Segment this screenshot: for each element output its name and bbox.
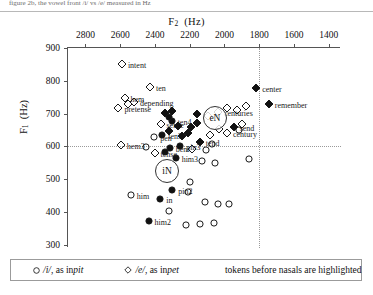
data-point-label: remember — [275, 101, 307, 110]
legend-note: tokens before nasals are highlighted — [225, 265, 362, 275]
x-tick-label: 2400 — [145, 30, 164, 40]
data-point-circle — [244, 155, 253, 164]
x-tick — [190, 44, 191, 48]
y-tick-label: 300 — [46, 240, 60, 250]
data-point-diamond — [120, 93, 130, 103]
data-point-diamond — [192, 109, 202, 119]
data-point-circle — [144, 217, 153, 226]
data-point-label: hem3 — [127, 142, 145, 151]
data-point-label: tend — [206, 139, 220, 148]
data-point-diamond — [264, 99, 274, 109]
x-tick — [120, 44, 121, 48]
data-point-circle — [168, 186, 177, 195]
data-point-diamond — [192, 118, 202, 128]
data-point-label: him3 — [182, 155, 198, 164]
y-tick-label: 800 — [46, 76, 60, 86]
x-tick-label: 2200 — [180, 30, 199, 40]
top-caption: figure 2b, the vowel front /i/ vs /e/ me… — [9, 0, 249, 8]
data-point-circle — [224, 200, 233, 209]
data-point-circle — [200, 198, 209, 207]
x-tick-label: 2800 — [76, 30, 95, 40]
data-point-circle — [211, 159, 220, 168]
data-point-diamond — [237, 119, 247, 129]
legend-entry-i: /i/ , as in pit — [29, 265, 83, 275]
x-tick — [224, 44, 225, 48]
data-point-circle — [176, 142, 185, 151]
data-point-circle — [183, 188, 192, 197]
y-tick — [64, 212, 68, 213]
x-tick — [85, 44, 86, 48]
legend-entry-e: /e/ , as in pet — [121, 265, 179, 275]
data-point-circle — [213, 200, 222, 209]
legend-symbol-e: /e/ — [135, 265, 145, 275]
circle-icon — [29, 267, 43, 274]
y-tick-label: 700 — [46, 109, 60, 119]
y-tick — [64, 245, 68, 246]
data-point-diamond — [173, 121, 183, 131]
data-point-diamond — [150, 148, 160, 158]
x-tick-label: 1600 — [285, 30, 304, 40]
legend-text-e: , as in — [145, 265, 167, 275]
data-point-label: him — [137, 192, 149, 201]
x-tick — [294, 44, 295, 48]
cluster-annotation-eN: eN — [203, 106, 227, 130]
data-point-diamond — [156, 119, 166, 129]
data-point-circle — [182, 221, 191, 230]
y-tick-label: 500 — [46, 174, 60, 184]
data-point-label: ten — [156, 84, 166, 93]
data-point-diamond — [145, 82, 155, 92]
data-point-label: tense — [161, 150, 177, 159]
legend-word-pit: pit — [73, 265, 83, 275]
y-tick-label: 400 — [46, 207, 60, 217]
y-tick — [64, 48, 68, 49]
scatter-plot-area: 2800260024002200200018001600140030040050… — [67, 47, 340, 247]
legend-word-pet: pet — [167, 265, 179, 275]
legend-symbol-i: /i/ — [43, 265, 51, 275]
data-point-label: center — [262, 85, 282, 94]
data-point-label: intent — [128, 61, 146, 70]
x-tick — [155, 44, 156, 48]
x-tick-label: 2000 — [215, 30, 234, 40]
x-tick-label: 1400 — [319, 30, 338, 40]
data-point-circle — [186, 177, 195, 186]
data-point-diamond — [251, 83, 261, 93]
x-axis-title: F2 (Hz) — [0, 16, 373, 28]
y-axis-title: F1 (Hz) — [18, 100, 30, 134]
data-point-circle — [126, 190, 135, 199]
data-point-diamond — [117, 59, 127, 69]
x-tick-label: 1800 — [250, 30, 269, 40]
x-tick-label: 2600 — [111, 30, 130, 40]
data-point-label: hem — [131, 95, 145, 104]
data-point-circle — [164, 206, 173, 215]
data-point-diamond — [241, 101, 251, 111]
data-point-circle — [196, 219, 205, 228]
diamond-icon — [121, 266, 135, 274]
data-point-label: in — [166, 196, 172, 205]
reference-line-vertical — [259, 48, 260, 248]
y-tick-label: 600 — [46, 141, 60, 151]
y-tick — [64, 179, 68, 180]
data-point-circle — [198, 156, 207, 165]
data-point-diamond — [116, 140, 126, 150]
data-point-circle — [156, 195, 165, 204]
header-divider — [0, 11, 373, 12]
cluster-annotation-iN: iN — [155, 159, 179, 183]
figure-root: figure 2b, the vowel front /i/ vs /e/ me… — [0, 0, 373, 295]
data-point-circle — [209, 219, 218, 228]
y-tick — [64, 81, 68, 82]
data-point-label: him2 — [155, 218, 171, 227]
data-point-diamond — [195, 137, 205, 147]
legend-text-i: , as in — [51, 265, 73, 275]
legend: /i/ , as in pit /e/ , as in pet tokens b… — [10, 259, 362, 281]
y-tick-label: 900 — [46, 43, 60, 53]
x-tick — [329, 44, 330, 48]
data-point-label: depending — [140, 99, 173, 108]
y-tick — [64, 114, 68, 115]
